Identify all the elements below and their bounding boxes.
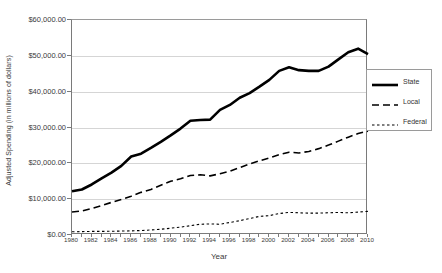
x-axis-title: Year [71, 252, 367, 261]
y-axis-tick-label: $50,000.00 [0, 50, 66, 59]
y-axis-title: Adjusted Spending (in millions of dollar… [0, 0, 16, 240]
legend-label: Federal [403, 118, 427, 125]
legend: StateLocalFederal [366, 69, 432, 131]
x-axis-tick-label: 1990 [163, 236, 177, 243]
x-axis-tick-label: 1980 [64, 236, 78, 243]
series-lines [72, 20, 368, 235]
series-line-state [72, 49, 368, 192]
x-axis-tick-label: 2006 [321, 236, 335, 243]
y-axis-tick-label: $20,000.00 [0, 158, 66, 167]
y-axis-tick-label: $10,000.00 [0, 194, 66, 203]
legend-swatch-federal [372, 116, 398, 126]
y-axis-tick-label: $60,000.00 [0, 15, 66, 24]
x-axis-tick-label: 1996 [222, 236, 236, 243]
line-chart: Adjusted Spending (in millions of dollar… [0, 0, 442, 273]
x-axis-tick-label: 1982 [84, 236, 98, 243]
x-axis-tick-label: 1992 [183, 236, 197, 243]
x-axis-tick-label: 1984 [104, 236, 118, 243]
x-axis-tick-label: 2002 [281, 236, 295, 243]
x-axis-tick-label: 1998 [242, 236, 256, 243]
legend-label: State [403, 78, 419, 85]
y-axis-tick-label: $0.00 [0, 230, 66, 239]
y-axis-tick-label: $30,000.00 [0, 122, 66, 131]
x-axis-tick-label: 2010 [360, 236, 374, 243]
x-axis-title-label: Year [211, 252, 227, 261]
series-line-federal [72, 211, 368, 231]
legend-swatch-local [372, 96, 398, 106]
x-axis-tick-label: 1986 [123, 236, 137, 243]
legend-item-federal[interactable]: Federal [367, 111, 431, 131]
legend-swatch-state [372, 76, 398, 86]
x-axis-tick-label: 2004 [301, 236, 315, 243]
y-axis-tick-label: $40,000.00 [0, 86, 66, 95]
x-axis-tick-label: 2000 [261, 236, 275, 243]
series-line-local [72, 131, 368, 212]
x-axis-tick-label: 1994 [202, 236, 216, 243]
x-axis-tick-label: 2008 [340, 236, 354, 243]
legend-label: Local [403, 98, 420, 105]
legend-item-local[interactable]: Local [367, 91, 431, 111]
x-axis-tick-label: 1988 [143, 236, 157, 243]
legend-item-state[interactable]: State [367, 71, 431, 91]
plot-area [71, 19, 367, 234]
